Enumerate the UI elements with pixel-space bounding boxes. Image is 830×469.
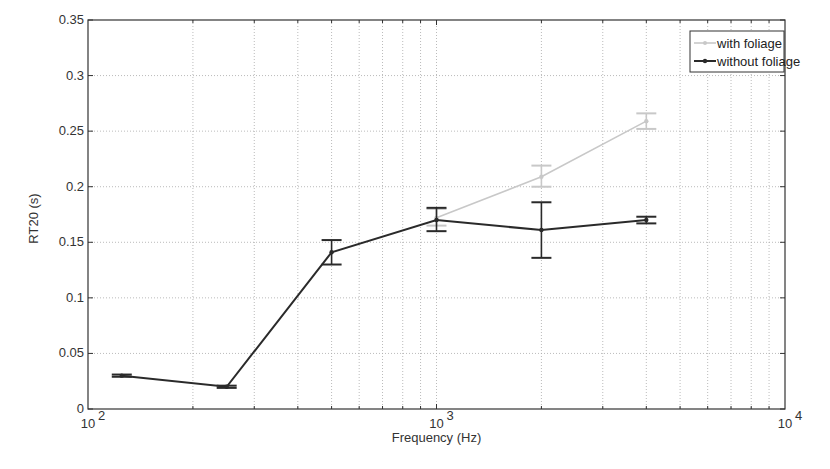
series-without-foliage [112,202,657,389]
series-line [122,220,647,387]
data-point [329,250,333,254]
data-point [120,373,124,377]
data-point [539,228,543,232]
legend-label-with-foliage: with foliage [716,36,782,51]
y-tick-label: 0.35 [59,12,84,27]
y-tick-label: 0.3 [66,68,84,83]
y-tick-label: 0.25 [59,123,84,138]
data-series [112,113,657,389]
x-tick-exponent: 4 [795,408,802,423]
y-tick-label: 0.05 [59,345,84,360]
data-point [644,119,648,123]
legend-marker-without-foliage [703,59,707,63]
y-tick-label: 0.2 [66,179,84,194]
legend-marker-with-foliage [703,41,707,45]
x-tick-label: 10 [429,416,443,431]
y-axis-label: RT20 (s) [26,193,41,243]
x-tick-label: 10 [778,416,792,431]
data-point [539,175,543,179]
y-tick-label: 0 [77,401,84,416]
legend: with foliage without foliage [690,31,800,72]
y-tick-label: 0.1 [66,290,84,305]
y-tick-label: 0.15 [59,234,84,249]
chart: 00.050.10.150.20.250.30.35102103104 Freq… [0,0,830,469]
x-axis-label: Frequency (Hz) [392,430,482,445]
x-tick-exponent: 2 [98,408,105,423]
x-tick-exponent: 3 [447,408,454,423]
data-point [644,218,648,222]
x-tick-label: 10 [81,416,95,431]
data-point [224,385,228,389]
data-point [434,218,438,222]
legend-label-without-foliage: without foliage [716,54,800,69]
